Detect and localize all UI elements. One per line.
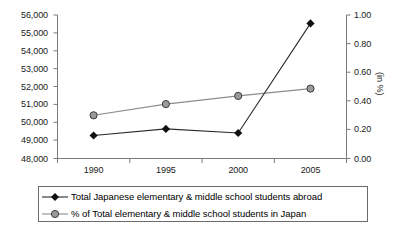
ytick-right-1-00: 1.00 <box>354 10 394 20</box>
ytick-left-51000: 51,000 <box>4 99 48 109</box>
xtick-1995: 1995 <box>146 165 186 175</box>
xtick-2000: 2000 <box>218 165 258 175</box>
ytick-left-48000: 48,000 <box>4 154 48 164</box>
ytick-right-0-40: 0.40 <box>354 96 394 106</box>
ytick-right-0-60: 0.60 <box>354 67 394 77</box>
xtick-2005: 2005 <box>291 165 331 175</box>
diamond-marker-icon <box>42 191 68 203</box>
bottom-axis-ticks <box>58 159 347 164</box>
ytick-left-49000: 49,000 <box>4 135 48 145</box>
circle-marker-icon <box>42 208 68 220</box>
ytick-left-54000: 54,000 <box>4 46 48 56</box>
chart-legend: Total Japanese elementary & middle schoo… <box>38 186 368 222</box>
series-markers-percent-japan <box>90 85 314 119</box>
ytick-left-55000: 55,000 <box>4 28 48 38</box>
chart-container: 56,000 55,000 54,000 53,000 52,000 51,00… <box>0 0 398 237</box>
ytick-right-0-00: 0.00 <box>354 154 394 164</box>
right-axis-title: (in %) <box>375 72 385 96</box>
right-axis-ticks <box>347 15 351 159</box>
series-line-students-abroad <box>94 23 311 135</box>
ytick-left-53000: 53,000 <box>4 64 48 74</box>
legend-label-percent-japan: % of Total elementary & middle school st… <box>71 208 306 219</box>
series-markers-students-abroad <box>90 19 315 139</box>
ytick-left-56000: 56,000 <box>4 10 48 20</box>
legend-label-students-abroad: Total Japanese elementary & middle schoo… <box>71 191 322 202</box>
ytick-left-52000: 52,000 <box>4 82 48 92</box>
series-line-percent-japan <box>94 89 311 116</box>
legend-item-students-abroad: Total Japanese elementary & middle schoo… <box>39 188 367 205</box>
ytick-right-0-20: 0.20 <box>354 124 394 134</box>
xtick-1990: 1990 <box>74 165 114 175</box>
ytick-left-50000: 50,000 <box>4 117 48 127</box>
left-axis-ticks <box>54 15 58 159</box>
ytick-right-0-80: 0.80 <box>354 39 394 49</box>
legend-item-percent-japan: % of Total elementary & middle school st… <box>39 205 367 222</box>
